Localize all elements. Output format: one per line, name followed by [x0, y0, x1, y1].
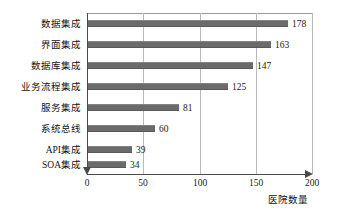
bar-row: 业务流程集成 125	[0, 77, 355, 97]
bar-chart: 数据集成 178 界面集成 163 数据库集成 147 业务流程集成 125 服…	[0, 0, 355, 216]
bar-row: 系统总线 60	[0, 119, 355, 139]
category-label: 数据集成	[0, 14, 81, 34]
x-tick-label: 100	[185, 177, 215, 189]
bar-segment	[88, 125, 155, 132]
category-label: 界面集成	[0, 35, 81, 55]
category-label: 数据库集成	[0, 56, 81, 76]
bar-row: 数据集成 178	[0, 14, 355, 34]
bar-value-label: 81	[183, 98, 193, 118]
x-axis-line	[87, 174, 306, 175]
bar-segment	[88, 83, 228, 90]
category-label: SOA集成	[0, 155, 81, 175]
category-label: 服务集成	[0, 98, 81, 118]
x-axis-title: 医院数量	[255, 194, 321, 207]
bar-segment	[88, 104, 179, 111]
category-label: 系统总线	[0, 119, 81, 139]
bar-segment	[88, 41, 271, 48]
bar-segment	[88, 146, 132, 153]
bar-value-label: 60	[159, 119, 169, 139]
bar-value-label: 163	[275, 35, 289, 55]
x-tick-label: 150	[241, 177, 271, 189]
bar-value-label: 147	[257, 56, 271, 76]
bar-row: SOA集成 34	[0, 155, 355, 175]
bar-value-label: 34	[130, 155, 140, 175]
x-tick-label: 0	[72, 177, 102, 189]
bar-value-label: 178	[292, 14, 306, 34]
bar-row: 数据库集成 147	[0, 56, 355, 76]
x-tick-label: 50	[128, 177, 158, 189]
bar-segment	[88, 20, 288, 27]
y-axis-line	[87, 13, 88, 170]
bar-segment	[88, 62, 253, 69]
category-label: 业务流程集成	[0, 77, 81, 97]
bar-segment	[88, 161, 126, 168]
x-tick-label: 200	[297, 177, 327, 189]
bar-row: 界面集成 163	[0, 35, 355, 55]
bar-row: 服务集成 81	[0, 98, 355, 118]
bar-value-label: 125	[232, 77, 246, 97]
